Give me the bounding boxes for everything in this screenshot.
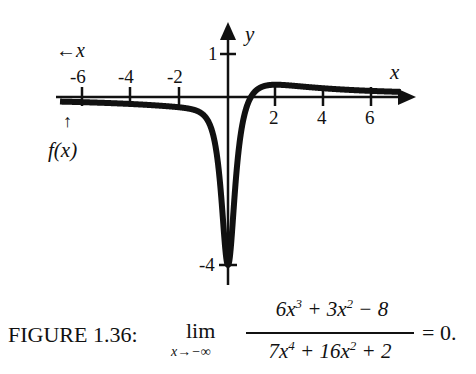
x-tick-label: 4: [317, 107, 327, 129]
limit-operator: lim: [186, 318, 215, 344]
function-curve: [60, 85, 401, 265]
fraction-numerator: 6x3 + 3x2 − 8: [248, 296, 416, 322]
fraction-bar: [246, 332, 414, 334]
limit-subscript: x→−∞: [171, 344, 211, 360]
figure-plot: -6 -4 -2 2 4 6 1 -4 y x ←x ↑ f(x): [0, 0, 476, 300]
x-tick-label: -4: [118, 66, 134, 88]
x-axis-label: x: [390, 60, 399, 85]
x-tick-label: 2: [269, 107, 279, 129]
fraction-denominator: 7x4 + 16x2 + 2: [246, 338, 414, 364]
x-tick-label: 6: [365, 107, 375, 129]
up-arrow-icon: ↑: [63, 111, 72, 132]
y-axis-arrow-icon: [220, 22, 236, 40]
fx-label: f(x): [48, 138, 77, 163]
y-tick-label: -4: [199, 254, 215, 276]
figure-caption: FIGURE 1.36: lim x→−∞ 6x3 + 3x2 − 8 7x4 …: [8, 292, 476, 372]
x-tick-label: -6: [70, 66, 86, 88]
equals-result: = 0.: [422, 320, 456, 346]
y-axis-label: y: [245, 22, 254, 47]
x-tick-label: -2: [167, 66, 183, 88]
y-tick-label: 1: [208, 43, 218, 65]
x-to-neg-infinity-label: ←x: [56, 39, 85, 62]
caption-label: FIGURE 1.36:: [8, 322, 138, 348]
